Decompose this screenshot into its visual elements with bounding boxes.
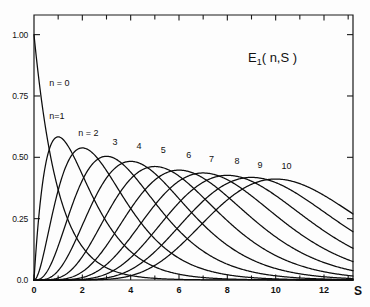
curve-label-n-9: 9 <box>257 160 262 170</box>
x-tick-label: 10 <box>271 285 281 295</box>
x-tick-label: 12 <box>319 285 329 295</box>
y-tick-label: 0.75 <box>12 91 28 101</box>
x-tick-label: 0 <box>31 285 36 295</box>
chart-svg: 024681012 0.00.250.500.751.00 n = 0n=1n … <box>0 0 370 307</box>
curve-label-n-4: 4 <box>137 141 142 151</box>
curve-label-n-0: n = 0 <box>49 78 69 88</box>
curve-label-n-8: 8 <box>234 156 239 166</box>
y-tick-label: 0.25 <box>12 214 28 224</box>
x-tick-label: 8 <box>225 285 230 295</box>
curve-label-n-10: 10 <box>282 161 292 171</box>
curve-label-n-1: n=1 <box>49 111 64 121</box>
figure-container: 024681012 0.00.250.500.751.00 n = 0n=1n … <box>0 0 370 307</box>
curve-label-n-7: 7 <box>209 154 214 164</box>
y-tick-label: 0.0 <box>17 275 29 285</box>
x-tick-label: 4 <box>128 285 133 295</box>
y-tick-label: 0.50 <box>12 152 28 162</box>
chart-title: E1( n,S ) <box>248 50 297 67</box>
curve-label-n-2: n = 2 <box>78 128 98 138</box>
x-tick-label: 6 <box>176 285 181 295</box>
curve-label-n-6: 6 <box>186 150 191 160</box>
x-axis-title: S <box>354 284 362 298</box>
curve-label-n-3: 3 <box>112 137 117 147</box>
y-tick-label: 1.00 <box>12 30 28 40</box>
curve-label-n-5: 5 <box>161 145 166 155</box>
x-tick-label: 2 <box>80 285 85 295</box>
